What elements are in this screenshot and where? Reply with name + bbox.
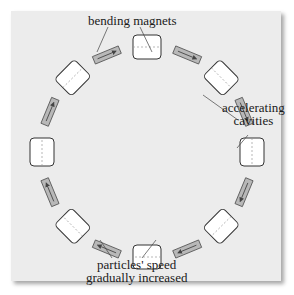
accelerating-cavities (30, 35, 264, 269)
label-bending-magnets: bending magnets (88, 14, 176, 27)
label-speed-line2: gradually increased (86, 270, 187, 285)
accelerator-ring-diagram (0, 0, 294, 295)
label-particles-speed: particles' speed gradually increased (86, 258, 187, 284)
label-accelerating-line2: cavities (234, 113, 274, 128)
label-accelerating-cavities: accelerating cavities (222, 101, 285, 127)
